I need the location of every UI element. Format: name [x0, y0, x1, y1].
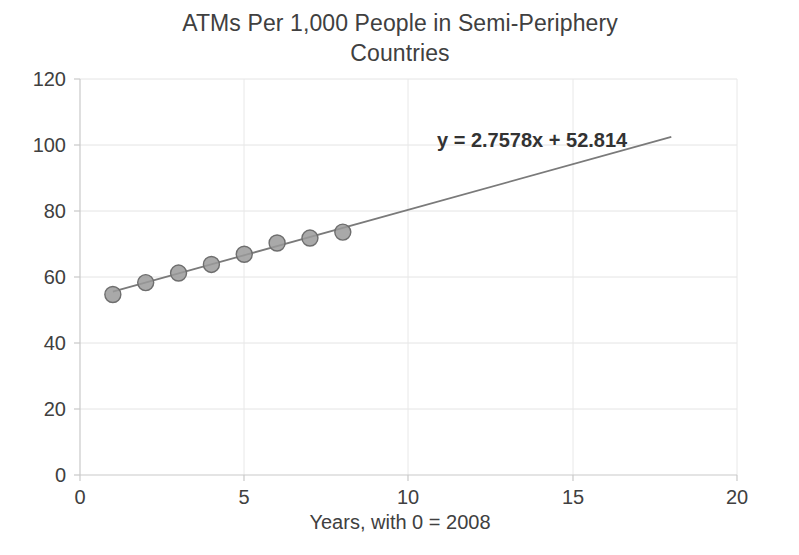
data-point: [335, 224, 351, 240]
ytick-label-100: 100: [6, 134, 66, 157]
trendline: [113, 137, 671, 292]
x-axis-ticks: [80, 475, 737, 481]
data-point: [302, 230, 318, 246]
data-point: [269, 235, 285, 251]
y-axis-ticks: [74, 79, 80, 475]
plot-area: [0, 0, 799, 555]
ytick-label-120: 120: [6, 68, 66, 91]
data-point: [236, 246, 252, 262]
ytick-label-0: 0: [6, 464, 66, 487]
xtick-label-0: 0: [50, 486, 110, 509]
ytick-label-40: 40: [6, 332, 66, 355]
data-point: [138, 275, 154, 291]
ytick-label-60: 60: [6, 266, 66, 289]
x-axis-title: Years, with 0 = 2008: [170, 511, 630, 534]
data-point: [105, 286, 121, 302]
xtick-label-20: 20: [707, 486, 767, 509]
trendline-equation-label: y = 2.7578x + 52.814: [437, 129, 627, 152]
xtick-label-15: 15: [543, 486, 603, 509]
data-point: [203, 256, 219, 272]
data-point: [171, 265, 187, 281]
xtick-label-5: 5: [214, 486, 274, 509]
ytick-label-80: 80: [6, 200, 66, 223]
data-point-series: [105, 224, 351, 302]
chart-container: ATMs Per 1,000 People in Semi-Periphery …: [0, 0, 799, 555]
xtick-label-10: 10: [378, 486, 438, 509]
ytick-label-20: 20: [6, 398, 66, 421]
